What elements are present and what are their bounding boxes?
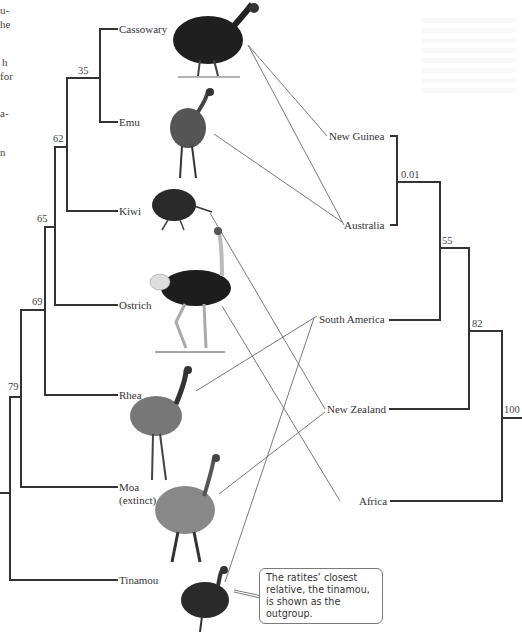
area-label-africa: Africa xyxy=(359,495,387,507)
ostrich-illustration xyxy=(150,227,231,352)
node-support-69: 69 xyxy=(32,296,43,307)
node-support-65: 65 xyxy=(37,213,48,224)
rhea-illustration xyxy=(130,366,192,480)
area-label-australia: Australia xyxy=(344,219,384,231)
area-tree-branches xyxy=(390,136,522,501)
figure-canvas: u- he h for a- n xyxy=(0,0,522,635)
node-support-82: 82 xyxy=(472,318,483,329)
taxon-label-tinamou: Tinamou xyxy=(119,574,158,586)
tinamou-illustration xyxy=(181,566,229,632)
area-label-new-zealand: New Zealand xyxy=(327,403,386,415)
cassowary-illustration xyxy=(173,3,259,77)
species-tree-branches xyxy=(0,29,117,580)
area-label-new-guinea: New Guinea xyxy=(329,130,384,142)
taxon-label-moa-extinct: (extinct) xyxy=(119,494,156,506)
area-label-south-america: South America xyxy=(319,313,385,325)
taxon-label-moa: Moa xyxy=(119,481,139,493)
taxon-label-emu: Emu xyxy=(119,116,140,128)
node-support-35: 35 xyxy=(78,65,89,76)
node-support-55: 55 xyxy=(442,235,453,246)
node-support-62: 62 xyxy=(53,133,64,144)
taxon-label-ostrich: Ostrich xyxy=(119,299,151,311)
outgroup-callout: The ratites’ closest relative, the tinam… xyxy=(259,568,383,624)
kiwi-illustration xyxy=(152,189,212,230)
taxon-label-rhea: Rhea xyxy=(119,389,142,401)
node-support-0-01: 0.01 xyxy=(401,169,419,180)
taxon-label-cassowary: Cassowary xyxy=(119,23,167,35)
node-support-100: 100 xyxy=(504,404,520,415)
taxon-label-kiwi: Kiwi xyxy=(119,205,141,217)
tree-svg xyxy=(0,0,522,635)
node-support-79: 79 xyxy=(8,381,19,392)
emu-illustration xyxy=(170,88,214,178)
